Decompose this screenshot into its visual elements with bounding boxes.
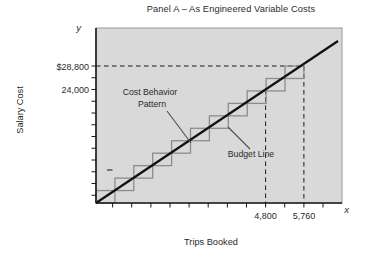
x-axis-title: Trips Booked	[184, 237, 238, 247]
budget-line-label: Budget Line	[228, 149, 275, 159]
y-axis-title: Salary Cost	[15, 86, 25, 134]
y-tick-label-24000: 24,000	[61, 85, 89, 95]
x-tick-label-5760: 5,760	[293, 211, 316, 221]
cost-behavior-label-line1: Cost Behavior	[123, 87, 178, 97]
x-tick-label-4800: 4,800	[254, 211, 277, 221]
figure-panel-a: Panel A – As Engineered Variable Costs	[0, 0, 368, 261]
y-axis-symbol: y	[75, 22, 82, 33]
chart-canvas: Panel A – As Engineered Variable Costs	[0, 0, 368, 261]
cost-behavior-label-line2: Pattern	[138, 99, 166, 109]
chart-title: Panel A – As Engineered Variable Costs	[147, 4, 316, 14]
x-axis-symbol: x	[343, 204, 350, 215]
y-tick-label-28800: $28,800	[56, 62, 89, 72]
